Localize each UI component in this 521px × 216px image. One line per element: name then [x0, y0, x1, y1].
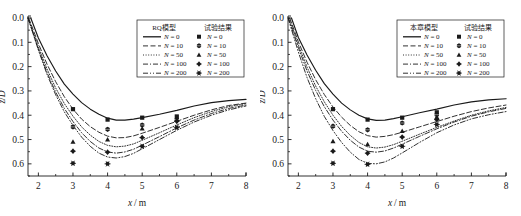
y-tick-label: 0.4	[272, 111, 284, 121]
x-tick-label: 4	[105, 181, 110, 191]
datapoints-left	[70, 107, 180, 166]
datapoint-N0	[140, 116, 144, 120]
legend-label-model-N100: N = 100	[423, 60, 447, 68]
legend-label-test-N0: N = 0	[206, 33, 223, 41]
y-tick-label: 0.2	[272, 62, 284, 72]
legend-marker-N0	[457, 35, 461, 39]
datapoint-N200	[139, 144, 145, 149]
datapoint-N0	[400, 116, 404, 120]
y-tick-label: 0.2	[12, 62, 24, 72]
legend-label-test-N100: N = 100	[206, 60, 230, 68]
y-tick-label: 0.1	[272, 38, 284, 48]
legend-header-test: 试验结果	[204, 23, 232, 32]
chart-panel-left: 0.00.10.20.30.40.50.62345678x / mz/DRQ模型…	[0, 0, 260, 216]
legend-header-test: 试验结果	[464, 23, 492, 32]
legend-label-test-N10: N = 10	[466, 42, 487, 50]
datapoint-N10	[365, 127, 370, 132]
x-tick-label: 5	[140, 181, 145, 191]
legend-right: 本章模型试验结果N = 0N = 0N = 10N = 10N = 50N = …	[397, 20, 504, 77]
legend-left: RQ模型试验结果N = 0N = 0N = 10N = 10N = 50N = …	[137, 20, 244, 77]
y-tick-label: 0.0	[12, 13, 24, 23]
y-tick-label: 0.3	[272, 86, 284, 96]
legend-label-test-N100: N = 100	[466, 60, 490, 68]
y-tick-label: 0.6	[272, 159, 284, 169]
x-tick-label: 5	[400, 181, 405, 191]
legend-label-model-N0: N = 0	[423, 33, 440, 41]
x-tick-label: 6	[434, 181, 439, 191]
datapoint-N100	[105, 149, 110, 155]
x-tick-label: 6	[174, 181, 179, 191]
legend-label-model-N0: N = 0	[163, 33, 180, 41]
legend-label-model-N50: N = 50	[163, 51, 184, 59]
x-tick-label: 4	[365, 181, 370, 191]
legend-label-test-N50: N = 50	[466, 51, 487, 59]
legend-header-model: 本章模型	[410, 23, 438, 32]
y-axis-label: z/D	[0, 90, 7, 104]
y-tick-label: 0.1	[12, 38, 24, 48]
legend-marker-N0	[197, 35, 201, 39]
legend-label-test-N50: N = 50	[206, 51, 227, 59]
legend-label-test-N10: N = 10	[206, 42, 227, 50]
datapoint-N200	[365, 162, 371, 167]
x-tick-label: 2	[296, 181, 301, 191]
datapoint-N50	[365, 142, 370, 147]
legend-label-model-N200: N = 200	[423, 69, 447, 77]
chart-svg-right: 0.00.10.20.30.40.50.62345678x / mz/D本章模型…	[260, 0, 521, 216]
datapoint-N0	[71, 107, 75, 111]
legend-label-model-N10: N = 10	[163, 42, 184, 50]
x-tick-label: 7	[469, 181, 474, 191]
datapoint-N0	[365, 118, 369, 122]
x-axis-label: x / m	[387, 198, 407, 208]
x-tick-label: 3	[331, 181, 336, 191]
x-tick-label: 2	[36, 181, 41, 191]
datapoint-N200	[105, 161, 111, 166]
chart-panel-right: 0.00.10.20.30.40.50.62345678x / mz/D本章模型…	[260, 0, 521, 216]
x-tick-label: 8	[504, 181, 509, 191]
chart-svg-left: 0.00.10.20.30.40.50.62345678x / mz/DRQ模型…	[0, 0, 260, 216]
datapoint-N200	[70, 161, 76, 166]
legend-label-model-N50: N = 50	[423, 51, 444, 59]
y-tick-label: 0.4	[12, 111, 24, 121]
legend-label-model-N10: N = 10	[423, 42, 444, 50]
x-tick-label: 7	[209, 181, 214, 191]
datapoint-N0	[105, 118, 109, 122]
x-tick-label: 8	[244, 181, 249, 191]
datapoint-N100	[70, 148, 75, 154]
two-panel-figure: 0.00.10.20.30.40.50.62345678x / mz/DRQ模型…	[0, 0, 521, 216]
datapoint-N50	[330, 139, 335, 144]
legend-label-test-N0: N = 0	[466, 33, 483, 41]
y-tick-label: 0.5	[272, 135, 284, 145]
datapoint-N200	[399, 144, 405, 149]
legend-header-model: RQ模型	[152, 23, 176, 32]
datapoint-N10	[105, 127, 110, 132]
y-tick-label: 0.3	[12, 86, 24, 96]
datapoint-N50	[70, 139, 75, 144]
datapoint-N50	[400, 128, 405, 133]
datapoint-N50	[140, 126, 145, 131]
y-tick-label: 0.5	[12, 135, 24, 145]
datapoint-N100	[330, 148, 335, 154]
datapoint-N200	[330, 161, 336, 166]
y-tick-label: 0.0	[272, 13, 284, 23]
legend-label-model-N100: N = 100	[163, 60, 187, 68]
y-tick-label: 0.6	[12, 159, 24, 169]
y-axis-label: z/D	[260, 90, 267, 104]
x-tick-label: 3	[71, 181, 76, 191]
datapoint-N10	[399, 120, 404, 125]
datapoint-N100	[399, 134, 404, 140]
legend-label-test-N200: N = 200	[466, 69, 490, 77]
legend-label-test-N200: N = 200	[206, 69, 230, 77]
datapoint-N50	[105, 137, 110, 142]
datapoint-N0	[331, 107, 335, 111]
datapoint-N100	[434, 117, 439, 123]
x-axis-label: x / m	[127, 198, 147, 208]
legend-label-model-N200: N = 200	[163, 69, 187, 77]
datapoints-right	[330, 107, 440, 167]
